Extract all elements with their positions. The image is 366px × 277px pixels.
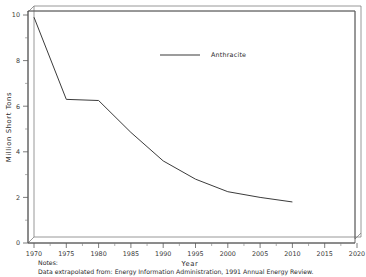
chart-legend: Anthracite <box>160 51 246 59</box>
x-tick-label: 1990 <box>155 250 171 258</box>
y-axis: 0 2 4 6 8 10 Million Short Tons <box>5 11 28 247</box>
x-tick-label: 1970 <box>26 250 42 258</box>
chart-container: 0 2 4 6 8 10 Million Short Tons <box>0 0 366 277</box>
y-tick-label: 8 <box>16 57 20 65</box>
series-line <box>34 17 292 202</box>
x-axis-tick-labels: 1970 1975 1980 1985 1990 1995 2000 2005 … <box>26 250 365 258</box>
y-axis-tick-labels: 0 2 4 6 8 10 <box>12 11 20 247</box>
x-tick-label: 1980 <box>90 250 106 258</box>
notes-block: Notes: Data extrapolated from: Energy In… <box>38 259 314 276</box>
x-tick-label: 2005 <box>252 250 268 258</box>
y-tick-label: 6 <box>16 103 20 111</box>
y-tick-label: 4 <box>16 148 20 156</box>
line-chart-figure: 0 2 4 6 8 10 Million Short Tons <box>0 0 366 277</box>
x-tick-label: 1995 <box>187 250 203 258</box>
y-axis-title: Million Short Tons <box>5 92 13 162</box>
x-tick-label: 2000 <box>220 250 236 258</box>
legend-label-anthracite: Anthracite <box>211 51 246 59</box>
x-tick-label: 1985 <box>123 250 139 258</box>
x-axis-ticks <box>34 243 357 248</box>
x-axis-title: Year <box>181 260 199 268</box>
x-tick-label: 2015 <box>317 250 333 258</box>
y-tick-label: 2 <box>16 194 20 202</box>
plot-area <box>28 11 355 243</box>
x-tick-label: 1975 <box>58 250 74 258</box>
x-tick-label: 2010 <box>284 250 300 258</box>
notes-heading: Notes: <box>38 259 58 266</box>
y-tick-label: 10 <box>12 11 20 19</box>
y-axis-ticks <box>23 15 28 243</box>
x-axis: 1970 1975 1980 1985 1990 1995 2000 2005 … <box>26 243 365 268</box>
notes-body: Data extrapolated from: Energy Informati… <box>38 268 314 276</box>
y-tick-label: 0 <box>16 239 20 247</box>
plot-frame-3d <box>28 6 361 243</box>
x-tick-label: 2020 <box>349 250 365 258</box>
series-anthracite <box>34 17 292 202</box>
